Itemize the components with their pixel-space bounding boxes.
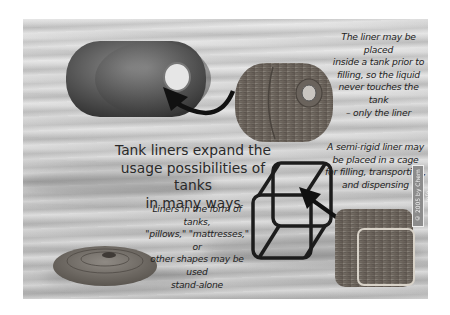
callout-line: A semi-rigid liner may — [323, 141, 428, 154]
title-line: Tank liners expand the — [103, 142, 283, 160]
callout-line: "pillows," "mattresses," or — [141, 228, 253, 253]
illustration-panel: The liner may be placed inside a tank pr… — [23, 19, 428, 299]
cube-liner — [335, 209, 414, 287]
bottle-liner — [235, 63, 333, 142]
callout-line: never touches the tank — [329, 81, 428, 106]
figure-title: Tank liners expand the usage possibiliti… — [103, 142, 283, 212]
callout-line: – only the liner — [329, 107, 428, 120]
cylindrical-tank — [66, 41, 211, 117]
callout-line: Liners in the form of tanks, — [141, 203, 253, 228]
copyright-label: © 2005 by Chem Info — [412, 165, 424, 227]
callout-line: inside a tank prior to — [329, 56, 428, 69]
callout-line: stand-alone — [141, 279, 253, 292]
callout-standalone: Liners in the form of tanks, "pillows," … — [141, 203, 253, 291]
callout-line: other shapes may be used — [141, 253, 253, 278]
callout-line: filling, so the liquid — [329, 69, 428, 82]
callout-line: The liner may be placed — [329, 31, 428, 56]
callout-inside-tank: The liner may be placed inside a tank pr… — [329, 31, 428, 119]
title-line: usage possibilities of tanks — [103, 160, 283, 195]
